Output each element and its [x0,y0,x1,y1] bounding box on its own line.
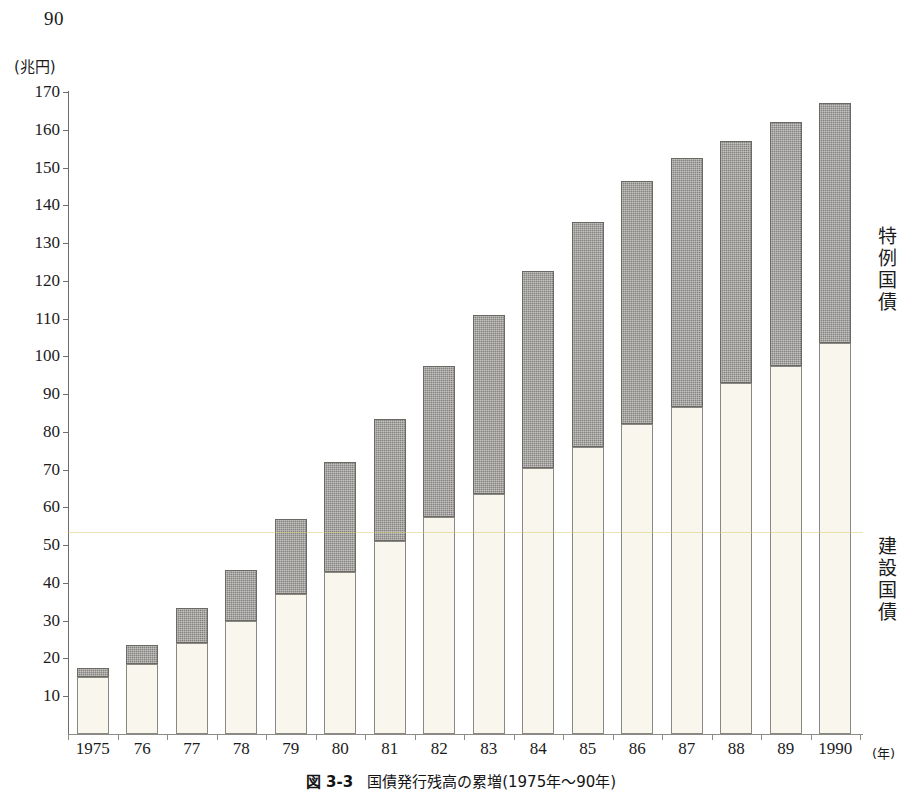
x-axis-tick-label: 82 [415,739,465,759]
y-axis-tick-label: 130 [14,234,60,251]
bar-stack [275,519,307,734]
x-axis-tick-labels: 197576777879808182838485868788891990 [0,739,922,769]
bar-segment-special-bonds [522,271,554,467]
x-axis-tick-mark [761,734,762,740]
bar-stack [126,645,158,734]
x-axis-tick-label: 87 [662,739,712,759]
x-axis-tick-mark [365,734,366,740]
bar-stack [720,141,752,734]
bar-stack [671,158,703,734]
bar-segment-construction-bonds [671,407,703,734]
bar-segment-special-bonds [225,570,257,621]
y-axis-tick-label: 80 [14,423,60,440]
bar-segment-construction-bonds [522,468,554,734]
x-axis-tick-mark [316,734,317,740]
x-axis-tick-label: 80 [316,739,366,759]
y-axis-tick-label: 110 [14,310,60,327]
figure-caption-number: 図 3-3 [306,773,353,790]
y-axis-tick-label: 90 [14,385,60,402]
legend-special-char: 債 [876,291,898,313]
bar-segment-special-bonds [720,141,752,383]
y-axis-tick-label: 30 [14,612,60,629]
x-axis-tick-mark [464,734,465,740]
legend-construction-char: 国 [876,579,898,601]
figure-caption-text: 国債発行残高の累増(1975年〜90年) [367,773,616,790]
x-axis-tick-mark [613,734,614,740]
bar-segment-special-bonds [572,222,604,447]
x-axis-tick-mark [860,734,861,740]
bar-segment-special-bonds [770,122,802,366]
bar-segment-construction-bonds [324,572,356,734]
x-axis-tick-label: 1990 [811,739,861,759]
bar-segment-construction-bonds [374,541,406,734]
bar-stack [621,181,653,734]
x-axis-tick-mark [68,734,69,740]
bar-segment-special-bonds [126,645,158,664]
bar-stack [324,462,356,734]
bar-stack [374,419,406,734]
x-axis-tick-label: 1975 [68,739,118,759]
page-container: 90 (兆円) 10203040506070809010011012013014… [0,0,922,790]
chart-figure: (兆円) 10203040506070809010011012013014015… [0,55,922,755]
bar-stack [176,608,208,735]
y-axis-tick-label: 10 [14,687,60,704]
y-axis-tick-label: 120 [14,272,60,289]
y-axis-tick-label: 170 [14,83,60,100]
x-axis-tick-label: 79 [266,739,316,759]
y-axis-tick-label: 60 [14,498,60,515]
x-axis-tick-label: 83 [464,739,514,759]
plot-bars-container [68,55,860,755]
bar-segment-construction-bonds [176,643,208,734]
bar-segment-special-bonds [176,608,208,644]
bar-segment-construction-bonds [770,366,802,734]
bar-segment-construction-bonds [819,343,851,734]
figure-caption: 図 3-3国債発行残高の累増(1975年〜90年) [0,770,922,790]
bar-segment-construction-bonds [720,383,752,734]
bar-segment-special-bonds [819,103,851,343]
x-axis-tick-mark [415,734,416,740]
bar-stack [77,668,109,734]
x-axis-tick-mark [712,734,713,740]
x-axis-tick-label: 85 [563,739,613,759]
legend-construction-char: 債 [876,601,898,623]
x-axis-tick-mark [563,734,564,740]
bar-segment-special-bonds [423,366,455,517]
x-axis-tick-mark [266,734,267,740]
bar-segment-special-bonds [374,419,406,542]
bar-stack [423,366,455,734]
y-axis-tick-label: 140 [14,196,60,213]
bar-stack [522,271,554,734]
bar-stack [572,222,604,734]
page-number: 90 [44,8,64,30]
bar-segment-construction-bonds [621,424,653,734]
bar-segment-construction-bonds [275,594,307,734]
bar-segment-special-bonds [671,158,703,407]
y-axis-tick-label: 70 [14,461,60,478]
x-axis-tick-label: 88 [712,739,762,759]
bar-segment-special-bonds [77,668,109,677]
bar-segment-special-bonds [275,519,307,595]
x-axis-tick-label: 84 [514,739,564,759]
bar-segment-construction-bonds [572,447,604,734]
x-axis-tick-label: 78 [217,739,267,759]
bar-segment-special-bonds [473,315,505,494]
x-axis-unit-label: (年) [872,743,895,762]
x-axis-tick-label: 76 [118,739,168,759]
legend-special-char: 例 [876,247,898,269]
bar-stack [770,122,802,734]
x-axis-tick-label: 86 [613,739,663,759]
x-axis-tick-mark [217,734,218,740]
legend-construction-char: 建 [876,535,898,557]
bar-segment-construction-bonds [77,677,109,734]
x-axis-tick-mark [118,734,119,740]
legend-construction-char: 設 [876,557,898,579]
legend-label-construction-bonds: 建設国債 [876,535,898,623]
legend-special-char: 国 [876,269,898,291]
x-axis-tick-label: 89 [761,739,811,759]
x-axis-tick-mark [167,734,168,740]
bar-stack [819,103,851,734]
y-axis-tick-label: 40 [14,574,60,591]
y-axis-tick-label: 160 [14,121,60,138]
bar-stack [473,315,505,734]
bar-stack [225,570,257,734]
